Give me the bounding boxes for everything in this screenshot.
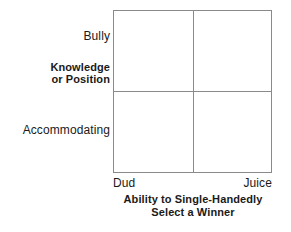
quadrant-bottom-left[interactable]	[114, 92, 193, 173]
y-axis-title: Knowledge or Position	[50, 61, 110, 85]
quadrant-matrix	[113, 10, 272, 173]
y-axis-title-line1: Knowledge	[50, 61, 110, 73]
divider-horizontal-icon	[114, 91, 271, 92]
y-axis: Bully Knowledge or Position Accommodatin…	[0, 0, 110, 173]
x-axis: Dud Juice	[113, 177, 272, 191]
y-axis-tick-high: Bully	[83, 30, 110, 43]
x-axis-tick-low: Dud	[113, 177, 135, 190]
x-axis-title-line1: Ability to Single-Handedly	[124, 193, 263, 205]
quadrant-bottom-right[interactable]	[194, 92, 273, 173]
x-axis-title-line2: Select a Winner	[103, 206, 283, 219]
x-axis-title: Ability to Single-Handedly Select a Winn…	[103, 193, 283, 218]
y-axis-tick-low: Accommodating	[23, 124, 110, 137]
quadrant-top-right[interactable]	[194, 11, 273, 92]
quadrant-top-left[interactable]	[114, 11, 193, 92]
x-axis-tick-high: Juice	[243, 177, 272, 190]
y-axis-title-line2: or Position	[50, 73, 110, 85]
quadrant-diagram: Bully Knowledge or Position Accommodatin…	[0, 0, 291, 232]
